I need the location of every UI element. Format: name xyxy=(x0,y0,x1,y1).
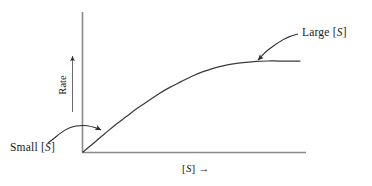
enzyme-kinetics-figure: Rate [S] → Small [S] Large [S] xyxy=(0,0,372,186)
small-s-label-text: Small [ xyxy=(10,141,45,153)
small-s-label-bracket-close: ] xyxy=(51,141,55,153)
small-s-arrow xyxy=(48,125,101,143)
x-axis-label: [S] → xyxy=(182,163,210,174)
large-s-label-bracket-close: ] xyxy=(343,26,347,38)
y-axis-label: Rate xyxy=(58,75,69,94)
large-s-label: Large [S] xyxy=(302,27,347,39)
x-axis-label-arrow-glyph: → xyxy=(198,162,209,174)
x-axis-label-bracket-close: ] xyxy=(192,162,196,174)
large-s-label-text: Large [ xyxy=(302,26,337,38)
y-axis-label-container: Rate xyxy=(56,62,70,108)
large-s-arrow xyxy=(258,34,298,60)
saturation-curve xyxy=(83,61,300,152)
small-s-label: Small [S] xyxy=(10,142,55,154)
